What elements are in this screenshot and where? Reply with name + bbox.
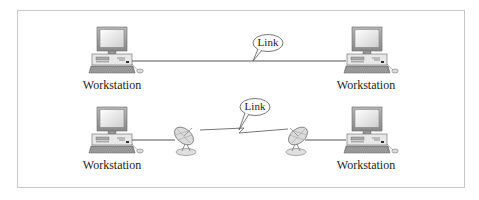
- workstation-label-bottom-right: Workstation: [326, 158, 406, 173]
- workstation-top-left-icon: [89, 27, 143, 73]
- workstation-bottom-right-icon: [344, 107, 398, 153]
- workstation-label-bottom-left: Workstation: [72, 158, 152, 173]
- workstation-top-right-icon: [344, 27, 398, 73]
- link-label-wired: Link: [253, 36, 283, 48]
- link-label-wireless: Link: [240, 100, 270, 112]
- workstation-label-top-right: Workstation: [326, 78, 406, 93]
- workstation-label-top-left: Workstation: [72, 78, 152, 93]
- wireless-signal-bolt: [200, 128, 288, 133]
- workstation-bottom-left-icon: [89, 107, 143, 153]
